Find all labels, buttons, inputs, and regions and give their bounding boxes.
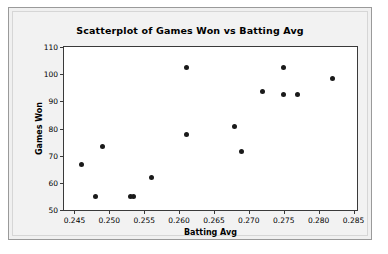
y-axis-tick-label: 50 <box>48 206 58 215</box>
scatter-point <box>330 76 335 81</box>
x-axis-tick-mark <box>284 210 285 214</box>
y-axis-tick-mark <box>60 74 64 75</box>
y-axis-tick-mark <box>60 47 64 48</box>
x-axis-tick-mark <box>214 210 215 214</box>
y-axis-tick-label: 70 <box>48 151 58 160</box>
x-axis-tick-label: 0.265 <box>203 216 224 225</box>
x-axis-tick-label: 0.285 <box>343 216 364 225</box>
y-axis-title-text: Games Won <box>35 102 44 155</box>
y-axis-tick-label: 110 <box>44 43 58 52</box>
scatter-point <box>295 92 300 97</box>
scatter-point <box>232 124 237 129</box>
chart-inner-panel: Scatterplot of Games Won vs Batting Avg … <box>12 11 368 236</box>
x-axis-tick-mark <box>74 210 75 214</box>
plot-area <box>64 47 357 210</box>
scatter-point <box>93 194 98 199</box>
scatter-point <box>149 175 154 180</box>
x-axis-tick-mark <box>109 210 110 214</box>
y-axis-tick-mark <box>60 210 64 211</box>
x-axis-tick-label: 0.255 <box>133 216 154 225</box>
x-axis-tick-label: 0.270 <box>238 216 259 225</box>
y-axis-tick-mark <box>60 101 64 102</box>
scatter-point <box>184 65 189 70</box>
scatter-point <box>239 149 244 154</box>
y-axis-tick-label: 60 <box>48 178 58 187</box>
x-axis-tick-label: 0.275 <box>273 216 294 225</box>
scatter-point <box>260 89 265 94</box>
x-axis-tick-label: 0.250 <box>99 216 120 225</box>
x-axis-tick-mark <box>144 210 145 214</box>
x-axis-tick-mark <box>319 210 320 214</box>
x-axis-tick-mark <box>249 210 250 214</box>
x-axis-title: Batting Avg <box>63 228 358 237</box>
x-axis-tick-mark <box>354 210 355 214</box>
y-axis-tick-label: 100 <box>44 70 58 79</box>
scatter-point <box>184 132 189 137</box>
chart-figure: Scatterplot of Games Won vs Batting Avg … <box>8 7 372 240</box>
x-axis-tick-mark <box>179 210 180 214</box>
y-axis-tick-label: 80 <box>48 124 58 133</box>
y-axis-tick-mark <box>60 156 64 157</box>
chart-title: Scatterplot of Games Won vs Batting Avg <box>13 25 367 36</box>
plot-frame: 50607080901001100.2450.2500.2550.2600.26… <box>63 46 358 211</box>
x-axis-tick-label: 0.245 <box>64 216 85 225</box>
scatter-point <box>281 65 286 70</box>
scatter-point <box>281 92 286 97</box>
y-axis-tick-label: 90 <box>48 97 58 106</box>
scatter-point <box>79 162 84 167</box>
scatter-point <box>131 194 136 199</box>
y-axis-tick-mark <box>60 183 64 184</box>
y-axis-tick-mark <box>60 129 64 130</box>
scatter-point <box>100 144 105 149</box>
x-axis-tick-label: 0.260 <box>168 216 189 225</box>
x-axis-tick-label: 0.280 <box>308 216 329 225</box>
